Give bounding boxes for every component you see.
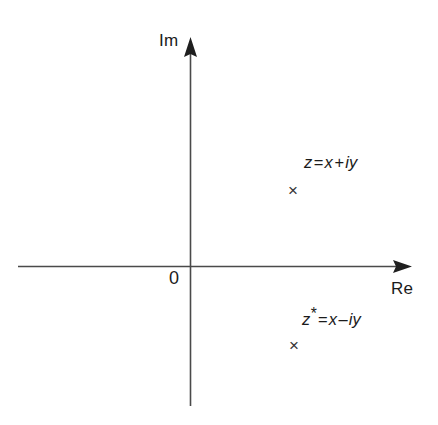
point-z-conjugate-label-variable: z <box>302 310 311 328</box>
point-z-marker: × <box>288 182 298 199</box>
point-z-conjugate-marker: × <box>289 337 299 354</box>
point-z-conjugate-label-equals: = <box>317 310 329 328</box>
real-axis-label: Re <box>391 280 413 297</box>
point-z-label-operator: + <box>333 153 345 171</box>
point-z-conjugate-label-operator: – <box>338 310 349 328</box>
point-z-conjugate-label-imag-part: iy <box>349 310 362 328</box>
point-z-conjugate-label-real-part: x <box>329 310 338 328</box>
origin-label: 0 <box>169 269 179 287</box>
point-z-label: z=x+iy <box>304 154 358 171</box>
imaginary-axis-arrowhead <box>184 37 197 57</box>
point-z-label-variable: z <box>304 153 313 171</box>
axes-group <box>0 0 438 425</box>
point-z-label-imag-part: iy <box>345 153 358 171</box>
argand-diagram-figure: Im Re 0 z=x+iy × z*=x–iy × <box>0 0 438 425</box>
imaginary-axis-label: Im <box>159 32 178 49</box>
point-z-conjugate-label: z*=x–iy <box>302 311 361 328</box>
point-z-label-equals: = <box>313 153 325 171</box>
